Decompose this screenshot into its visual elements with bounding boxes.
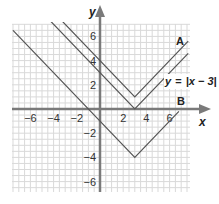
svg-text:y = |x − 3|: y = |x − 3| xyxy=(164,75,217,87)
y-tick-label: 6 xyxy=(90,30,96,42)
x-tick-label: 4 xyxy=(143,112,149,124)
x-axis-label: x xyxy=(198,115,207,129)
y-tick-label: −2 xyxy=(83,127,96,139)
series-label-b: B xyxy=(177,95,185,107)
series-label-a: A xyxy=(176,35,184,47)
x-tick-label: 2 xyxy=(120,112,126,124)
x-tick-label: −2 xyxy=(71,112,84,124)
y-tick-label: 2 xyxy=(90,79,96,91)
y-axis-arrow-icon xyxy=(95,5,105,17)
y-tick-label: −6 xyxy=(83,176,96,188)
equation-equals: = xyxy=(175,75,181,87)
y-axis-label: y xyxy=(88,5,97,19)
equation-y: y xyxy=(164,75,172,87)
x-tick-label: −4 xyxy=(47,112,60,124)
x-axis-arrow-icon xyxy=(199,104,211,114)
absolute-value-graph: −6−4−2246642−2−4−6 y x A B y = |x − 3| xyxy=(0,0,219,204)
equation-label: y = |x − 3| xyxy=(164,74,217,89)
equation-abs: |x − 3| xyxy=(186,75,217,87)
y-tick-label: −4 xyxy=(83,151,96,163)
x-tick-label: −6 xyxy=(24,112,37,124)
